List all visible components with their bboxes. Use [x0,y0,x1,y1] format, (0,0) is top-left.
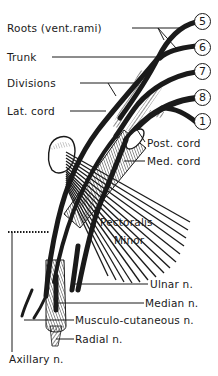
root-number-c6: 6 [194,39,211,56]
root-number-c8: 8 [194,89,211,106]
label-pectoralis: Pectoralis [100,217,153,228]
label-divisions: Divisions [7,78,56,89]
axillary-hatch [8,232,50,352]
label-minor: Minor [114,235,144,246]
label-med-cord: Med. cord [147,156,201,167]
root-number-c7: 7 [194,63,211,80]
label-post-cord: Post. cord [147,138,201,149]
label-trunk: Trunk [7,52,37,63]
label-roots: Roots (vent.rami) [7,23,102,34]
brachial-plexus-diagram: 5 6 7 8 1 Roots (vent.rami) Trunk Divisi… [0,0,218,376]
label-ulnar: Ulnar n. [150,279,193,290]
label-axillary: Axillary n. [9,354,64,365]
nerve-roots [116,22,196,140]
label-median: Median n. [145,298,198,309]
label-lat-cord: Lat. cord [7,106,55,117]
root-number-t1: 1 [194,113,211,130]
label-musculo: Musculo-cutaneous n. [75,315,194,326]
label-radial: Radial n. [75,334,123,345]
root-number-c5: 5 [194,13,211,30]
